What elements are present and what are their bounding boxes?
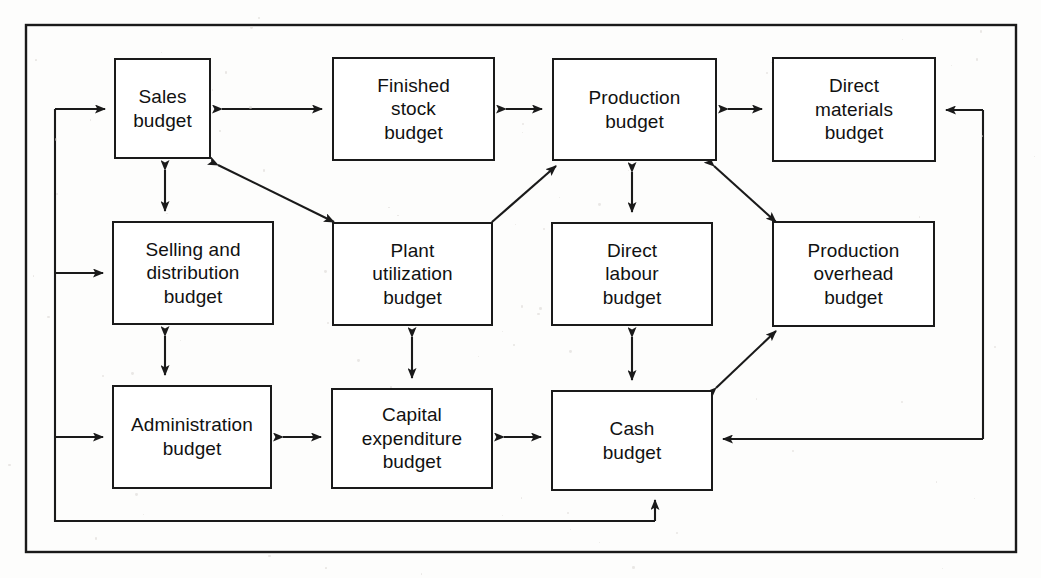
paper-speck [55,138,57,140]
node-capital-expenditure-budget[interactable]: Capital expenditure budget [331,388,493,489]
node-label: Production overhead budget [804,239,904,310]
paper-speck [567,512,569,514]
arrow-production-prodoverhead [714,166,776,222]
paper-speck [537,313,540,316]
paper-speck [388,207,389,208]
arrow-plant-production [492,166,556,222]
paper-speck [543,228,545,230]
node-plant-utilization-budget[interactable]: Plant utilization budget [332,222,493,326]
paper-speck [936,481,937,482]
paper-speck [8,464,11,467]
paper-speck [90,119,92,121]
paper-speck [249,106,251,108]
node-label: Finished stock budget [373,74,454,145]
paper-speck [792,450,794,452]
node-label: Administration budget [127,413,257,460]
paper-speck [47,316,49,318]
paper-speck [980,30,983,33]
node-label: Selling and distribution budget [141,238,244,309]
arrow-sales-plant [218,165,334,222]
paper-speck [95,537,98,540]
node-label: Production budget [585,86,685,133]
paper-speck [513,344,514,345]
node-administration-budget[interactable]: Administration budget [112,385,272,489]
budget-flow-diagram: Sales budget Finished stock budget Produ… [0,0,1041,578]
node-cash-budget[interactable]: Cash budget [551,390,713,491]
paper-speck [258,17,259,18]
paper-speck [324,270,327,273]
paper-speck [421,573,422,574]
paper-speck [598,203,601,206]
node-direct-labour-budget[interactable]: Direct labour budget [551,222,713,326]
paper-speck [325,567,327,569]
node-direct-materials-budget[interactable]: Direct materials budget [772,57,936,162]
paper-speck [521,305,524,308]
node-sales-budget[interactable]: Sales budget [114,58,211,159]
node-label: Cash budget [599,417,666,464]
node-label: Direct materials budget [811,74,897,145]
paper-speck [632,566,634,568]
paper-speck [35,59,37,61]
paper-speck [676,532,678,534]
node-label: Capital expenditure budget [358,403,466,474]
paper-speck [397,215,398,216]
paper-speck [33,275,35,277]
paper-speck [982,135,983,136]
node-finished-stock-budget[interactable]: Finished stock budget [332,57,495,161]
node-production-overhead-budget[interactable]: Production overhead budget [772,221,935,327]
paper-speck [219,130,220,131]
paper-speck [628,170,629,171]
node-label: Direct labour budget [599,239,666,310]
node-selling-and-distribution-budget[interactable]: Selling and distribution budget [112,221,274,325]
paper-speck [539,307,542,310]
node-label: Sales budget [129,85,196,132]
paper-speck [502,515,503,516]
node-label: Plant utilization budget [368,239,456,310]
arrow-cash-prodoverhead [716,331,776,388]
paper-speck [225,71,227,73]
node-production-budget[interactable]: Production budget [552,58,717,161]
paper-speck [569,350,572,353]
